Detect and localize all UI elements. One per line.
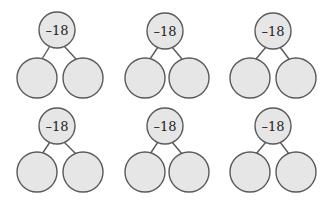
part-circle-right[interactable] [169, 58, 209, 98]
part-circle-left[interactable] [17, 58, 57, 98]
part-circle-right[interactable] [169, 152, 209, 192]
connector-line [42, 142, 50, 154]
connector-line [256, 47, 266, 59]
part-circle-left[interactable] [230, 58, 270, 98]
connector-line [42, 46, 50, 59]
connector-line [64, 46, 76, 59]
part-whole-model-1: –18 [17, 12, 103, 98]
connector-line [150, 142, 158, 154]
whole-value: –18 [153, 119, 176, 134]
connector-line [280, 142, 289, 154]
whole-value: –18 [45, 119, 68, 134]
part-circle-right[interactable] [276, 58, 316, 98]
connector-line [150, 47, 158, 59]
connector-line [256, 142, 266, 154]
connector-line [280, 47, 289, 59]
part-whole-model-6: –18 [230, 108, 316, 192]
part-circle-right[interactable] [63, 58, 103, 98]
part-circle-left[interactable] [125, 152, 165, 192]
part-circle-left[interactable] [17, 152, 57, 192]
part-circle-right[interactable] [276, 152, 316, 192]
part-whole-model-5: –18 [125, 108, 209, 192]
connector-line [172, 47, 182, 59]
whole-value: –18 [45, 23, 68, 38]
part-circle-left[interactable] [230, 152, 270, 192]
part-circle-left[interactable] [125, 58, 165, 98]
whole-value: –18 [261, 24, 284, 39]
part-circle-right[interactable] [63, 152, 103, 192]
connector-line [64, 142, 76, 154]
part-whole-worksheet: –18 –18 –18 –18 –18 [0, 0, 330, 204]
whole-value: –18 [153, 24, 176, 39]
whole-value: –18 [261, 119, 284, 134]
part-whole-model-4: –18 [17, 108, 103, 192]
connector-line [172, 142, 182, 154]
part-whole-model-2: –18 [125, 13, 209, 98]
part-whole-model-3: –18 [230, 13, 316, 98]
